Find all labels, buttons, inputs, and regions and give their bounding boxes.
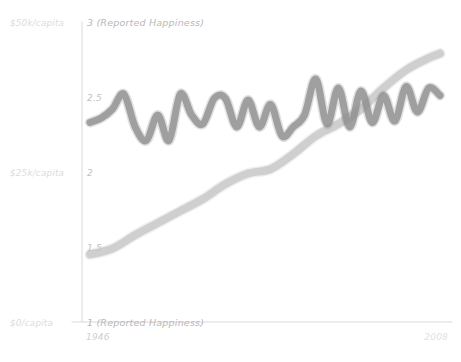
y-tick-label-1: 2.5 [87, 93, 102, 103]
y-tick-label-4: 1 (Reported Happiness) [87, 317, 204, 328]
x-tick-label-0: 1946 [86, 332, 110, 342]
y-tick-label-3: 1.5 [87, 243, 102, 253]
left-axis-label-1: $25k/capita [10, 168, 64, 178]
chart-canvas: $50k/capita$25k/capita$0/capita3 (Report… [0, 0, 461, 362]
y-tick-label-2: 2 [87, 168, 93, 178]
left-axis-label-0: $50k/capita [10, 18, 64, 28]
series-gdp-per-capita [90, 54, 440, 255]
y-tick-label-0: 3 (Reported Happiness) [87, 17, 204, 28]
x-tick-label-1: 2008 [424, 332, 448, 342]
series-line [90, 54, 440, 255]
left-axis-label-2: $0/capita [10, 318, 53, 328]
chart-page: $50k/capita$25k/capita$0/capita3 (Report… [0, 0, 461, 362]
series-layer [90, 54, 440, 255]
